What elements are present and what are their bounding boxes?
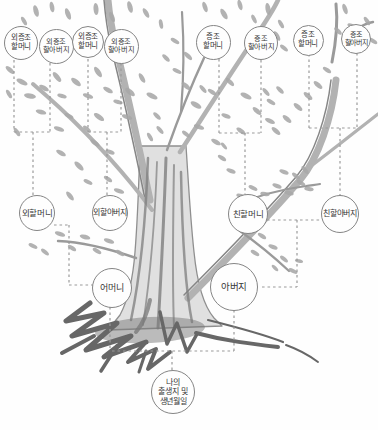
node-self-birth: 나의출생지 및생년월일 — [151, 370, 195, 414]
leaf-icon — [277, 19, 285, 29]
leaf-icon — [20, 16, 28, 26]
node-label-line: 할머니 — [78, 42, 98, 51]
node-label-line: 어머니 — [100, 283, 123, 294]
leaf-icon — [141, 7, 150, 19]
leaf-icon — [55, 148, 67, 157]
node-label-line: 증조 — [350, 31, 361, 39]
leaf-icon — [51, 71, 63, 83]
leaf-icon — [40, 247, 50, 256]
leaf-icon — [170, 37, 180, 45]
leaf-icon — [264, 117, 276, 126]
leaf-icon — [268, 243, 278, 250]
leaf-icon — [103, 237, 115, 245]
twig-top-right-a — [332, 4, 337, 62]
leaf-icon — [219, 8, 229, 21]
leaf-icon — [49, 1, 55, 12]
leaf-icon — [322, 66, 332, 75]
leaf-icon — [161, 53, 171, 63]
node-label-line: 나의 — [166, 378, 179, 387]
leaf-icon — [279, 168, 289, 175]
leaf-icon — [272, 182, 282, 189]
leaf-icon — [198, 84, 207, 94]
leaf-icon — [275, 85, 285, 95]
twig-top-center — [181, 12, 183, 112]
node-paternal-great-grandfather-2: 증조할아버지 — [341, 24, 371, 54]
node-label-line: 할아버지 — [43, 46, 70, 54]
leaf-icon — [113, 187, 125, 195]
leaf-icon — [70, 76, 82, 88]
node-maternal-great-grandmother-2: 외증조할머니 — [72, 26, 104, 58]
leaf-icon — [236, 0, 243, 11]
leaf-icon — [261, 87, 270, 97]
node-paternal-great-grandfather-1: 증조할아버지 — [244, 26, 278, 60]
leaf-icon — [279, 43, 289, 52]
leaf-icon — [312, 80, 323, 90]
leaf-icon — [172, 67, 182, 75]
node-label-line: 할머니 — [298, 40, 318, 49]
leaf-icon — [28, 242, 38, 250]
leaf-icon — [93, 3, 99, 15]
family-tree-worksheet: 외증조할머니외증조할아버지외증조할머니외증조할아버지증조할머니증조할아버지증조할… — [0, 0, 378, 430]
leaf-icon — [158, 19, 164, 29]
leaf-icon — [271, 264, 279, 272]
leaf-icon — [226, 167, 236, 174]
leaf-icon — [240, 91, 253, 101]
node-label-line: 생년월일 — [160, 397, 187, 406]
leaf-icon — [220, 142, 228, 151]
leaf-icon — [248, 184, 258, 192]
leaf-icon — [152, 111, 162, 121]
leaf-icon — [64, 8, 73, 21]
node-label-line: 친할머니 — [233, 209, 264, 219]
leaf-icon — [257, 232, 267, 241]
node-label-line: 외할머니 — [22, 208, 53, 218]
leaf-icon — [113, 99, 123, 105]
leaf-icon — [102, 85, 114, 94]
leaf-icon — [217, 154, 227, 163]
leaf-icon — [32, 5, 40, 18]
leaf-icon — [35, 108, 47, 115]
node-label-line: 할아버지 — [248, 43, 275, 51]
leaf-icon — [210, 137, 222, 146]
leaf-icon — [221, 112, 231, 119]
leaf-icon — [93, 112, 106, 123]
node-label-line: 외할아버지 — [93, 208, 127, 217]
leaf-icon — [57, 93, 67, 99]
leaf-icon — [16, 77, 29, 87]
leaf-icon — [79, 233, 91, 240]
node-label-line: 할아버지 — [345, 39, 368, 47]
leaf-icon — [270, 126, 281, 136]
node-paternal-grandmother: 친할머니 — [228, 194, 268, 234]
node-maternal-grandfather: 외할아버지 — [92, 195, 128, 231]
node-mother: 어머니 — [92, 268, 132, 308]
leaf-icon — [190, 100, 203, 110]
leaf-icon — [93, 66, 104, 79]
leaf-icon — [5, 89, 13, 99]
node-label-line: 할머니 — [11, 43, 31, 52]
leaf-icon — [292, 102, 303, 112]
leaf-icon — [341, 3, 349, 15]
leaf-icon — [126, 1, 134, 14]
leaf-icon — [250, 249, 260, 257]
node-maternal-great-grandfather-1: 외증조할아버지 — [39, 29, 74, 64]
leaf-icon — [24, 92, 37, 99]
leaf-icon — [266, 98, 276, 106]
node-maternal-grandmother: 외할머니 — [19, 195, 55, 231]
leaf-icon — [250, 14, 258, 24]
leaf-icon — [294, 258, 303, 264]
node-label-line: 아버지 — [221, 281, 247, 292]
leaf-icon — [146, 91, 159, 101]
node-maternal-great-grandmother-1: 외증조할머니 — [4, 26, 38, 60]
leaf-icon — [83, 178, 93, 186]
leaf-icon — [54, 230, 66, 238]
node-paternal-great-grandmother-1: 증조할머니 — [196, 25, 231, 60]
node-label-line: 친할아버지 — [323, 209, 357, 218]
node-paternal-great-grandmother-2: 증조할머니 — [293, 25, 324, 56]
leaf-icon — [155, 125, 164, 135]
leaf-icon — [73, 160, 85, 172]
leaf-icon — [137, 72, 146, 84]
node-father: 아버지 — [210, 263, 258, 311]
branch-right-fork — [306, 114, 378, 170]
leaf-icon — [281, 114, 292, 124]
node-label-line: 출생지 및 — [158, 387, 187, 396]
leaf-icon — [302, 91, 313, 101]
